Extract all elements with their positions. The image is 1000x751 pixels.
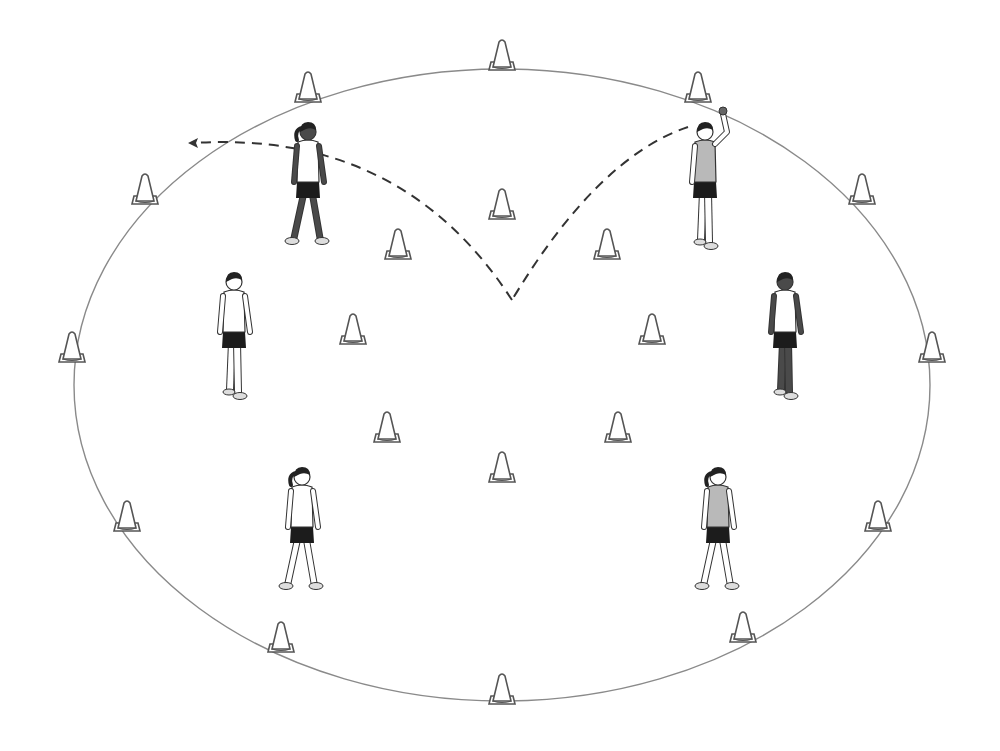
drill-diagram — [0, 0, 1000, 751]
player-top-right — [692, 107, 727, 250]
outer-cone-icon — [730, 612, 756, 642]
player-bottom-left — [279, 467, 323, 590]
inner-cone-icon — [489, 452, 515, 482]
diagram-canvas — [0, 0, 1000, 751]
outer-cone-icon — [489, 674, 515, 704]
shorts — [706, 527, 730, 543]
outer-cone-icon — [295, 72, 321, 102]
field-boundary-oval — [74, 69, 930, 701]
outer-cone-icon — [132, 174, 158, 204]
inner-cone-icon — [489, 189, 515, 219]
shirt — [707, 485, 729, 527]
inner-cone-icon — [340, 314, 366, 344]
shirt — [297, 140, 319, 182]
outer-cone-icon — [919, 332, 945, 362]
outer-cone-icon — [865, 501, 891, 531]
arrowhead-icon — [188, 138, 198, 148]
outer-cone-icon — [114, 501, 140, 531]
outer-cone-icon — [59, 332, 85, 362]
player-top-left — [285, 122, 329, 245]
shirt — [223, 290, 245, 332]
outer-cone-icon — [685, 72, 711, 102]
throw-path-line — [512, 127, 688, 300]
shorts — [290, 527, 314, 543]
player-mid-left — [220, 272, 250, 400]
shirt — [291, 485, 313, 527]
shorts — [693, 182, 717, 198]
shorts — [773, 332, 797, 348]
player-mid-right — [771, 272, 801, 400]
rebound-path-line — [194, 142, 512, 300]
outer-cone-icon — [489, 40, 515, 70]
inner-cone-icon — [594, 229, 620, 259]
outer-cone-icon — [268, 622, 294, 652]
inner-cone-icon — [374, 412, 400, 442]
shirt — [774, 290, 796, 332]
player-bottom-right — [695, 467, 739, 590]
inner-cone-icon — [639, 314, 665, 344]
outer-cone-icon — [849, 174, 875, 204]
inner-cone-icon — [605, 412, 631, 442]
ball-icon — [719, 107, 727, 115]
shorts — [296, 182, 320, 198]
shorts — [222, 332, 246, 348]
inner-cone-icon — [385, 229, 411, 259]
